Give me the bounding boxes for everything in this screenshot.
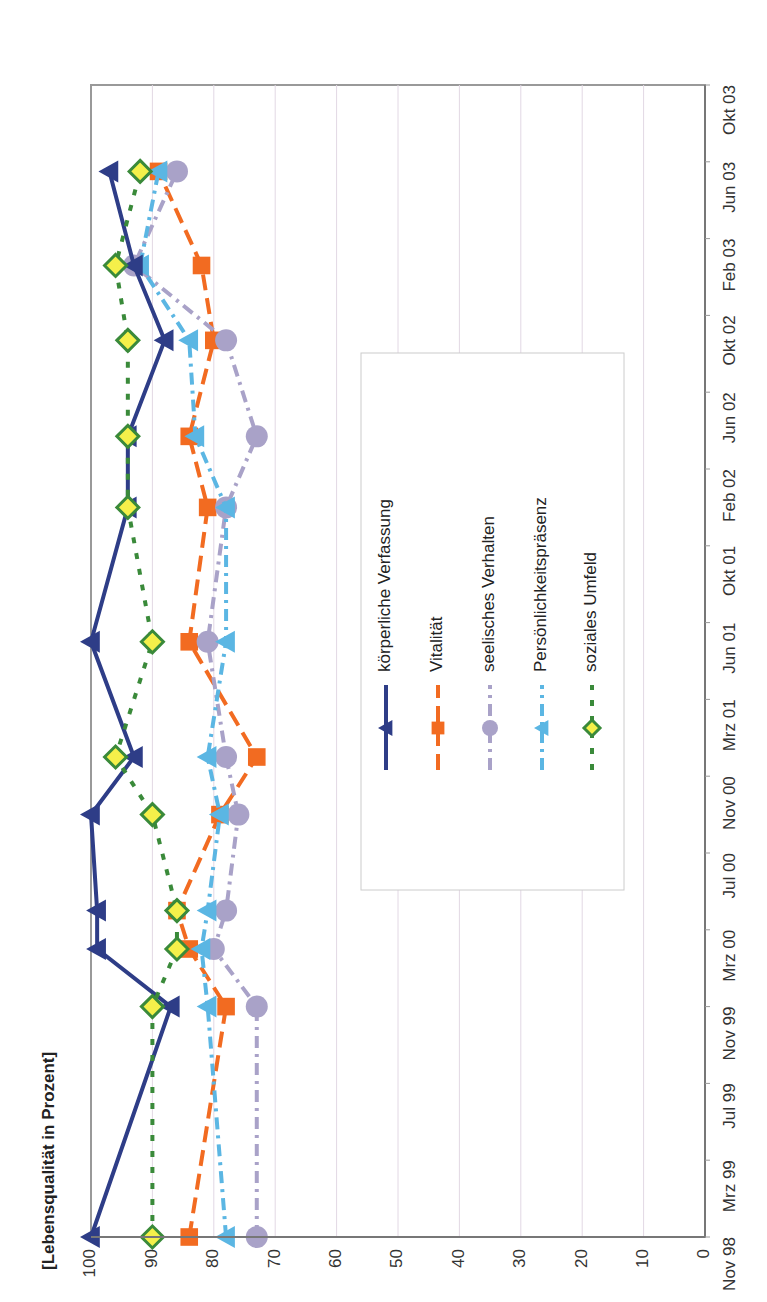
circle-marker-icon [246, 425, 268, 447]
value-tick-label: 70 [265, 1249, 284, 1268]
value-tick-label: 90 [142, 1249, 161, 1268]
square-marker-icon [432, 722, 445, 735]
time-tick-label: Nov 98 [720, 1237, 739, 1291]
value-tick-label: 60 [326, 1249, 345, 1268]
time-tick-label: Feb 02 [720, 469, 739, 522]
time-tick-label: Okt 03 [720, 85, 739, 135]
circle-marker-icon [215, 900, 237, 922]
square-marker-icon [199, 499, 217, 517]
time-tick-label: Jul 99 [720, 1083, 739, 1128]
line-chart: 0102030405060708090100Nov 98Mrz 99Jul 99… [0, 0, 767, 1302]
square-marker-icon [193, 257, 211, 275]
time-tick-label: Okt 01 [720, 546, 739, 596]
circle-marker-icon [215, 329, 237, 351]
time-tick-label: Feb 03 [720, 239, 739, 292]
value-tick-label: 10 [633, 1249, 652, 1268]
square-marker-icon [248, 748, 266, 766]
value-tick-label: 50 [387, 1249, 406, 1268]
value-axis-title: [Lebensqualität in Prozent] [39, 1052, 58, 1270]
time-tick-label: Jun 01 [720, 623, 739, 674]
value-tick-label: 30 [510, 1249, 529, 1268]
circle-marker-icon [166, 160, 188, 182]
time-tick-label: Nov 99 [720, 1007, 739, 1061]
circle-marker-icon [482, 720, 498, 736]
legend-label: Vitalität [427, 616, 446, 672]
time-tick-label: Jun 02 [720, 392, 739, 443]
time-tick-label: Jul 00 [720, 853, 739, 898]
value-tick-label: 20 [572, 1249, 591, 1268]
time-tick-label: Mrz 99 [720, 1160, 739, 1212]
legend-label: soziales Umfeld [581, 552, 600, 672]
time-tick-label: Mrz 00 [720, 930, 739, 982]
square-marker-icon [180, 633, 198, 651]
value-tick-label: 80 [203, 1249, 222, 1268]
value-tick-label: 40 [449, 1249, 468, 1268]
circle-marker-icon [227, 804, 249, 826]
time-tick-label: Okt 02 [720, 315, 739, 365]
time-tick-label: Nov 00 [720, 776, 739, 830]
triangle-marker-icon [80, 631, 100, 653]
value-tick-label: 100 [80, 1249, 99, 1277]
legend-label: Persönlichkeitspräsenz [531, 497, 550, 672]
legend-label: seelisches Verhalten [479, 516, 498, 672]
legend: körperliche VerfassungVitalitätseelische… [361, 353, 624, 890]
value-tick-label: 0 [694, 1249, 713, 1258]
circle-marker-icon [246, 996, 268, 1018]
time-tick-label: Jun 03 [720, 162, 739, 213]
circle-marker-icon [215, 746, 237, 768]
time-tick-label: Mrz 01 [720, 699, 739, 751]
legend-label: körperliche Verfassung [375, 499, 394, 672]
square-marker-icon [217, 998, 235, 1016]
